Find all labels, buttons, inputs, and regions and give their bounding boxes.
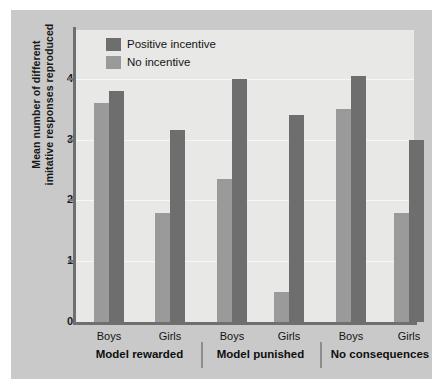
chart-legend: Positive incentive No incentive [106,38,216,69]
x-group-label: Model rewarded [80,348,200,361]
group-separator [320,342,322,368]
y-axis-title-line-2: imitative responses reproduced [42,5,55,205]
x-group-label: No consequences [320,348,440,361]
legend-item-no-incentive: No incentive [106,56,216,69]
figure-root: 01234 Mean number of different imitative… [0,0,443,389]
bar [336,109,351,322]
legend-label-no-incentive: No incentive [127,56,190,69]
x-category-label: Girls [384,330,434,342]
y-axis-title-line-1: Mean number of different [30,5,43,205]
x-category-label: Boys [207,330,257,342]
y-axis-title: Mean number of different imitative respo… [30,5,55,205]
bar [170,130,185,322]
legend-swatch-icon-no-incentive [106,56,121,69]
bar [394,213,409,323]
bar [94,103,109,322]
legend-label-positive-incentive: Positive incentive [127,38,216,51]
bar [155,213,170,323]
bar [217,179,232,322]
legend-item-positive-incentive: Positive incentive [106,38,216,51]
y-axis-line [73,27,76,325]
bar [109,91,124,322]
y-tick-mark [68,199,73,201]
bar [351,76,366,322]
y-tick-mark [68,139,73,141]
bar [289,115,304,322]
bar [232,79,247,322]
bar [274,292,289,322]
legend-swatch-icon-positive-incentive [106,38,121,51]
y-tick-label: 0 [53,316,73,327]
group-separator [201,342,203,368]
x-category-label: Girls [264,330,314,342]
x-category-label: Boys [84,330,134,342]
y-tick-mark [68,78,73,80]
x-axis-line [73,322,417,325]
x-category-label: Girls [145,330,195,342]
y-tick-mark [68,260,73,262]
x-category-label: Boys [326,330,376,342]
x-group-label: Model punished [201,348,321,361]
bar [409,140,424,323]
